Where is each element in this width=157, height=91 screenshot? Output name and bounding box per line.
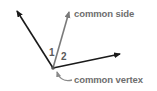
- adjacent-angles-diagram: 1 2 common side common vertex: [0, 0, 157, 91]
- common-side-label: common side: [74, 9, 134, 19]
- common-vertex-label: common vertex: [74, 75, 143, 85]
- vertex-point: [51, 66, 55, 70]
- angle-1-label: 1: [49, 48, 55, 58]
- angle-2-label: 2: [61, 52, 67, 62]
- vertex-pointer-arrow: [57, 72, 72, 81]
- left-ray: [17, 11, 53, 68]
